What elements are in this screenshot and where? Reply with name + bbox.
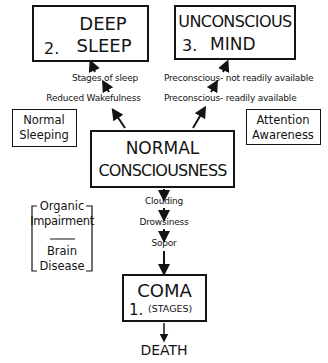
brain-label: Brain xyxy=(32,244,92,258)
normal-consciousness-line2: CONSCIOUSNESS xyxy=(92,161,233,180)
arrow-up-left-3 xyxy=(92,65,95,72)
deep-sleep-line2: SLEEP xyxy=(74,35,134,56)
deep-sleep-line1: DEEP xyxy=(78,13,128,34)
arrow-up-right-3 xyxy=(223,65,226,72)
arrow-up-right-2 xyxy=(211,85,215,92)
arrow-up-left-2 xyxy=(105,85,109,92)
clouding-label: Clouding xyxy=(124,196,204,206)
normal-sleeping-box: Normal Sleeping xyxy=(12,109,77,147)
unconscious-mind-line1: UNCONSCIOUS xyxy=(176,12,294,31)
coma-stages: (STAGES) xyxy=(148,303,192,314)
awareness-line: Awareness xyxy=(247,128,319,142)
normal-consciousness-box: NORMAL CONSCIOUSNESS xyxy=(90,130,235,188)
coma-line1: COMA xyxy=(124,280,205,301)
sopor-label: Sopor xyxy=(124,238,204,248)
organic-label: Organic xyxy=(32,199,92,213)
impairment-label: Impairment xyxy=(30,214,94,228)
normal-sleeping-line1: Normal xyxy=(13,113,75,127)
unconscious-mind-box: UNCONSCIOUS 3. MIND xyxy=(174,5,296,60)
preconscious-readily-label: Preconscious- readily available xyxy=(164,93,297,103)
disease-label: Disease xyxy=(32,259,92,273)
coma-box: COMA 1. (STAGES) xyxy=(122,274,207,322)
drowsiness-label: Drowsiness xyxy=(124,217,204,227)
arrow-up-left-1 xyxy=(115,113,125,128)
stages-of-sleep-label: Stages of sleep xyxy=(55,73,155,83)
death-label: DEATH xyxy=(124,342,204,358)
attention-line: Attention xyxy=(247,113,319,127)
normal-consciousness-line1: NORMAL xyxy=(92,138,233,158)
attention-awareness-box: Attention Awareness xyxy=(246,109,321,145)
arrow-up-right-1 xyxy=(193,111,203,128)
unconscious-mind-line2: MIND xyxy=(210,34,256,54)
deep-sleep-box: DEEP 2. SLEEP xyxy=(32,5,149,62)
normal-sleeping-line2: Sleeping xyxy=(13,128,75,142)
unconscious-mind-number: 3. xyxy=(182,36,197,55)
coma-number: 1. xyxy=(129,301,143,319)
preconscious-not-readily-label: Preconscious- not readily available xyxy=(164,73,313,83)
reduced-wakefulness-label: Reduced Wakefulness xyxy=(36,93,151,103)
deep-sleep-number: 2. xyxy=(44,39,59,58)
